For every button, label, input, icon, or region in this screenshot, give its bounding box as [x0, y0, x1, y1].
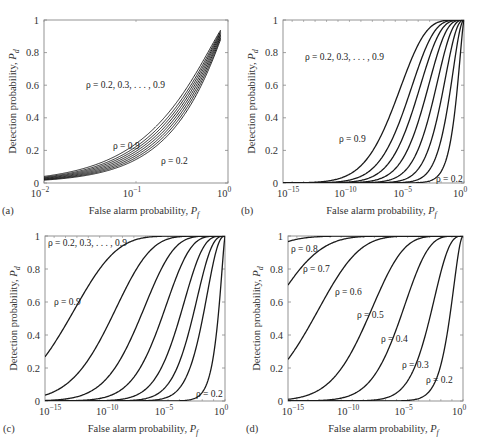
y-tick-label: 1 [278, 231, 283, 242]
x-tick-label: 10−1 [123, 185, 142, 199]
curve-annotation: ρ = 0.4 [381, 334, 408, 344]
x-tick-label: 100 [452, 403, 467, 417]
plot-frame [44, 20, 228, 183]
roc-curve [44, 30, 221, 176]
curve-annotation: ρ = 0.2, 0.3, . . . , 0.9 [86, 80, 165, 90]
x-axis-label: False alarm probability, Pf [88, 423, 200, 437]
y-tick-label: 0 [34, 178, 39, 189]
roc-curve [283, 20, 464, 183]
y-tick-label: 0.2 [26, 145, 39, 156]
roc-curve [283, 20, 464, 183]
curve-annotation: ρ = 0.3 [402, 360, 429, 370]
y-axis-label: Detection probability, Pd [246, 48, 260, 154]
y-tick-label: 0.8 [27, 264, 40, 275]
curve-annotation: ρ = 0.2, 0.3, . . . , 0.9 [305, 52, 384, 62]
roc-curve [44, 39, 221, 180]
y-tick-label: 0.8 [26, 47, 39, 58]
chart-panel-a: 00.20.40.60.8110−210−1100False alarm pro… [2, 15, 231, 220]
x-tick-label: 10−15 [39, 403, 61, 417]
x-tick-label: 100 [217, 185, 232, 199]
roc-curve [283, 20, 464, 183]
roc-curve [44, 34, 221, 179]
curve-annotation: ρ = 0.2 [196, 389, 223, 399]
y-tick-label: 1 [35, 231, 40, 242]
curve-annotation: ρ = 0.9 [339, 134, 366, 144]
y-tick-label: 0.6 [270, 297, 283, 308]
y-tick-label: 0.4 [265, 112, 279, 123]
y-axis-label: Detection probability, Pd [7, 48, 21, 154]
y-tick-label: 0.2 [27, 363, 40, 374]
x-tick-label: 10−10 [96, 403, 118, 417]
roc-curve [283, 20, 464, 183]
curve-annotation: ρ = 0.2, 0.3, . . . , 0.9 [48, 238, 127, 248]
y-tick-label: 0.2 [265, 145, 278, 156]
panel-label: (b) [241, 205, 254, 217]
curve-annotation: ρ = 0.5 [357, 310, 384, 320]
roc-curve [283, 20, 464, 183]
y-tick-label: 0.4 [26, 112, 40, 123]
y-tick-label: 1 [34, 15, 39, 26]
chart-panel-d: 00.20.40.60.8110−1510−1010−5100False ala… [246, 231, 466, 438]
curve-annotation: ρ = 0.2 [426, 375, 453, 385]
roc-curve [45, 236, 225, 401]
x-axis-label: False alarm probability, Pf [89, 205, 201, 219]
roc-figure: 00.20.40.60.8110−210−1100False alarm pro… [0, 0, 480, 440]
y-tick-label: 0.2 [270, 363, 283, 374]
x-tick-label: 10−10 [334, 185, 356, 199]
y-tick-label: 0 [278, 396, 283, 407]
y-axis-label: Detection probability, Pd [251, 265, 265, 371]
x-tick-label: 100 [214, 403, 229, 417]
panel-label: (d) [246, 423, 259, 435]
roc-curve [283, 20, 464, 183]
y-tick-label: 0.8 [270, 264, 283, 275]
curve-annotation: ρ = 0.9 [54, 297, 81, 307]
y-tick-label: 0.4 [27, 330, 41, 341]
roc-curve [44, 38, 221, 180]
chart-panel-b: 00.20.40.60.8110−1510−1010−5100False ala… [241, 15, 467, 220]
y-tick-label: 0.6 [265, 80, 278, 91]
curve-annotation: ρ = 0.7 [303, 264, 330, 274]
x-tick-label: 10−5 [393, 185, 412, 199]
y-tick-label: 0 [273, 178, 278, 189]
y-tick-label: 0.4 [270, 330, 284, 341]
panel-label: (c) [3, 423, 15, 435]
y-tick-label: 0.6 [26, 80, 39, 91]
roc-curve [283, 20, 464, 183]
y-tick-label: 0.6 [27, 297, 40, 308]
x-tick-label: 100 [453, 185, 468, 199]
x-tick-label: 10−15 [277, 185, 299, 199]
x-tick-label: 10−5 [155, 403, 174, 417]
roc-curve [283, 20, 464, 183]
y-tick-label: 0 [35, 396, 40, 407]
y-axis-label: Detection probability, Pd [8, 265, 22, 371]
curve-annotation: ρ = 0.2 [161, 156, 188, 166]
y-tick-label: 1 [273, 15, 278, 26]
x-tick-label: 10−15 [282, 403, 304, 417]
x-tick-label: 10−2 [31, 185, 50, 199]
curve-annotation: ρ = 0.2 [436, 174, 463, 184]
y-tick-label: 0.8 [265, 47, 278, 58]
curve-annotation: ρ = 0.6 [335, 287, 362, 297]
curve-annotation: ρ = 0.9 [113, 141, 140, 151]
x-axis-label: False alarm probability, Pf [326, 205, 438, 219]
curve-annotation: ρ = 0.8 [291, 244, 318, 254]
chart-panel-c: 00.20.40.60.8110−1510−1010−5100False ala… [3, 231, 228, 438]
panel-label: (a) [2, 205, 14, 217]
x-tick-label: 10−5 [394, 403, 413, 417]
x-tick-label: 10−10 [337, 403, 359, 417]
plot-frame [283, 20, 464, 183]
roc-curve [44, 36, 221, 179]
x-axis-label: False alarm probability, Pf [328, 423, 440, 437]
